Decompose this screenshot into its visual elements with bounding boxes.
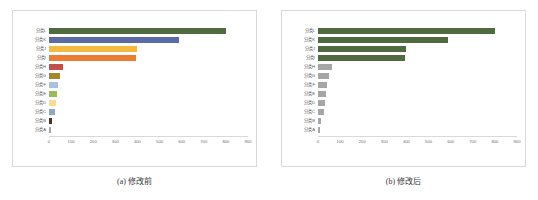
bar-row: 分类J: [17, 45, 248, 53]
bar-track: [49, 117, 248, 125]
bar-row: 分类K: [17, 36, 248, 44]
bar-track: [318, 117, 517, 125]
category-label: 分类D: [286, 99, 318, 107]
bar-row: 分类F: [286, 81, 517, 89]
chart-a: 分类L分类K分类J分类I分类H分类G分类F分类E分类D分类C分类B分类A 010…: [12, 10, 257, 167]
bar: [49, 82, 58, 88]
panel-a: 分类L分类K分类J分类I分类H分类G分类F分类E分类D分类C分类B分类A 010…: [0, 0, 269, 200]
bar-row: 分类D: [286, 99, 517, 107]
bar-track: [318, 99, 517, 107]
bar-track: [318, 45, 517, 53]
bar-track: [49, 90, 248, 98]
category-label: 分类H: [286, 63, 318, 71]
bar-track: [318, 36, 517, 44]
x-axis-tick: 200: [359, 139, 366, 145]
bar-row: 分类G: [17, 72, 248, 80]
bar: [318, 73, 329, 79]
panel-caption-a: (a) 修改前: [117, 175, 152, 186]
bar-track: [49, 63, 248, 71]
category-label: 分类L: [17, 27, 49, 35]
bar-track: [49, 108, 248, 116]
x-axis-tick: 0: [48, 139, 50, 145]
bar-row: 分类L: [286, 27, 517, 35]
x-axis-tick: 900: [514, 139, 521, 145]
bar: [318, 28, 495, 34]
bar-track: [49, 126, 248, 134]
bar: [318, 100, 325, 106]
panel-b: 分类L分类K分类J分类I分类H分类G分类F分类E分类D分类C分类B分类A 010…: [269, 0, 538, 200]
bar-row: 分类I: [17, 54, 248, 62]
bar-track: [49, 99, 248, 107]
x-axis-tick: 400: [134, 139, 141, 145]
bar: [49, 28, 226, 34]
bar: [318, 55, 405, 61]
figure-container: 分类L分类K分类J分类I分类H分类G分类F分类E分类D分类C分类B分类A 010…: [0, 0, 538, 200]
bar: [49, 37, 179, 43]
bar-track: [318, 54, 517, 62]
bar-row: 分类C: [17, 108, 248, 116]
bar: [318, 118, 321, 124]
bar-row: 分类B: [17, 117, 248, 125]
bar-track: [49, 54, 248, 62]
category-label: 分类E: [17, 90, 49, 98]
category-label: 分类A: [17, 126, 49, 134]
bar: [318, 91, 326, 97]
category-label: 分类K: [17, 36, 49, 44]
x-axis-tick: 900: [245, 139, 252, 145]
bar-rows-a: 分类L分类K分类J分类I分类H分类G分类F分类E分类D分类C分类B分类A: [17, 27, 248, 134]
x-axis-tick: 500: [156, 139, 163, 145]
bar: [318, 82, 327, 88]
chart-b: 分类L分类K分类J分类I分类H分类G分类F分类E分类D分类C分类B分类A 010…: [281, 10, 526, 167]
x-axis-tick: 200: [90, 139, 97, 145]
x-axis-tick: 600: [178, 139, 185, 145]
bar: [318, 64, 332, 70]
bar-row: 分类B: [286, 117, 517, 125]
category-label: 分类G: [286, 72, 318, 80]
bar: [318, 109, 324, 115]
bar-track: [318, 126, 517, 134]
category-label: 分类I: [286, 54, 318, 62]
category-label: 分类F: [17, 81, 49, 89]
category-label: 分类F: [286, 81, 318, 89]
bar-track: [318, 63, 517, 71]
bar-track: [49, 81, 248, 89]
x-axis-tick: 500: [425, 139, 432, 145]
bar: [49, 91, 57, 97]
bar-rows-b: 分类L分类K分类J分类I分类H分类G分类F分类E分类D分类C分类B分类A: [286, 27, 517, 134]
bar: [318, 127, 320, 133]
bar-row: 分类E: [286, 90, 517, 98]
category-label: 分类B: [286, 117, 318, 125]
x-axis-track-a: 0100200300400500600700800900: [49, 136, 248, 149]
x-axis-tick: 300: [381, 139, 388, 145]
bar-row: 分类A: [286, 126, 517, 134]
category-label: 分类C: [17, 108, 49, 116]
bar-row: 分类C: [286, 108, 517, 116]
bar-row: 分类G: [286, 72, 517, 80]
category-label: 分类J: [17, 45, 49, 53]
plot-area-b: 分类L分类K分类J分类I分类H分类G分类F分类E分类D分类C分类B分类A 010…: [282, 11, 525, 166]
bar-track: [49, 72, 248, 80]
bar: [49, 73, 60, 79]
bar: [49, 118, 52, 124]
x-axis-tick: 300: [112, 139, 119, 145]
x-axis-tick: 800: [222, 139, 229, 145]
category-label: 分类E: [286, 90, 318, 98]
category-label: 分类K: [286, 36, 318, 44]
x-axis-track-b: 0100200300400500600700800900: [318, 136, 517, 149]
bar: [49, 64, 63, 70]
x-axis-tick: 400: [403, 139, 410, 145]
bar: [49, 100, 56, 106]
bar-track: [318, 90, 517, 98]
bar-row: 分类I: [286, 54, 517, 62]
bar-track: [318, 81, 517, 89]
x-axis-tick: 100: [68, 139, 75, 145]
x-axis-tick: 0: [317, 139, 319, 145]
bar-row: 分类K: [286, 36, 517, 44]
bar-row: 分类F: [17, 81, 248, 89]
bar-row: 分类L: [17, 27, 248, 35]
bar-track: [318, 72, 517, 80]
bar-track: [49, 27, 248, 35]
bar-track: [318, 108, 517, 116]
panel-caption-b: (b) 修改后: [386, 175, 421, 186]
category-label: 分类I: [17, 54, 49, 62]
